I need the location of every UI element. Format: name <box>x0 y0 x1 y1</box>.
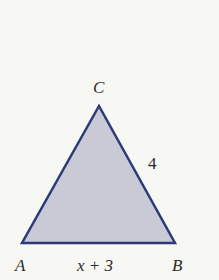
triangle-abc <box>22 106 175 243</box>
side-label-ab-text: x + 3 <box>77 256 113 275</box>
vertex-label-a: A <box>15 257 25 274</box>
vertex-label-c: C <box>93 79 104 96</box>
side-label-ab: x + 3 <box>77 257 113 274</box>
side-label-bc: 4 <box>148 155 157 172</box>
vertex-label-b: B <box>172 257 182 274</box>
triangle-figure <box>0 0 219 280</box>
